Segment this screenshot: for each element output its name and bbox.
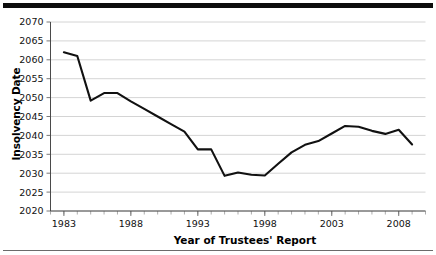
bottom-divider-rule [3,250,433,251]
x-tick-label: 1998 [253,218,277,229]
line-chart-plot: 2020202520302035204020452050205520602065… [0,0,436,255]
y-tick-label: 2035 [19,149,43,160]
x-tick-label: 2008 [387,218,411,229]
x-axis-title: Year of Trustees' Report [60,234,430,246]
x-axis-ticks-group: 198319881993199820032008 [51,211,426,229]
x-tick-label: 2003 [320,218,344,229]
y-axis-ticks-group: 2020202520302035204020452050205520602065… [19,16,50,216]
y-tick-label: 2065 [19,35,43,46]
y-tick-label: 2045 [19,111,43,122]
gridlines-group [51,22,426,211]
x-tick-label: 1988 [119,218,143,229]
y-tick-label: 2030 [19,168,43,179]
y-tick-label: 2040 [19,130,43,141]
insolvency-date-series-line [64,52,412,176]
x-tick-label: 1983 [52,218,76,229]
y-tick-label: 2070 [19,16,43,27]
y-tick-label: 2055 [19,73,43,84]
chart-figure: Insolvency Date 202020252030203520402045… [0,0,436,255]
y-tick-label: 2050 [19,92,43,103]
x-tick-label: 1993 [186,218,210,229]
y-tick-label: 2025 [19,187,43,198]
y-tick-label: 2020 [19,205,43,216]
y-tick-label: 2060 [19,54,43,65]
